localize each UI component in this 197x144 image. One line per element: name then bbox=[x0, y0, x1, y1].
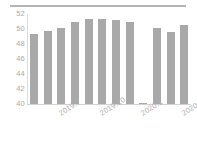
y-tick-label: 44 bbox=[3, 70, 25, 78]
y-tick-label: 42 bbox=[3, 85, 25, 93]
bar bbox=[30, 34, 38, 105]
y-tick-label: 52 bbox=[3, 10, 25, 18]
y-tick-label: 46 bbox=[3, 55, 25, 63]
bar bbox=[112, 20, 120, 104]
y-tick-label: 48 bbox=[3, 40, 25, 48]
bar bbox=[71, 22, 79, 105]
x-axis-tick-labels: 2019.72019.102020.12020.4 bbox=[0, 104, 197, 144]
bar bbox=[180, 25, 188, 105]
bar bbox=[126, 22, 134, 104]
top-divider-rule bbox=[10, 5, 186, 7]
bar bbox=[85, 19, 93, 104]
bar-series bbox=[27, 14, 191, 104]
bar bbox=[167, 32, 175, 104]
bar bbox=[153, 28, 161, 105]
y-tick-label: 50 bbox=[3, 25, 25, 33]
bar bbox=[98, 19, 106, 104]
bar-chart: 52504846444240 2019.72019.102020.12020.4 bbox=[0, 0, 197, 144]
bar bbox=[44, 31, 52, 105]
bar bbox=[57, 28, 65, 105]
